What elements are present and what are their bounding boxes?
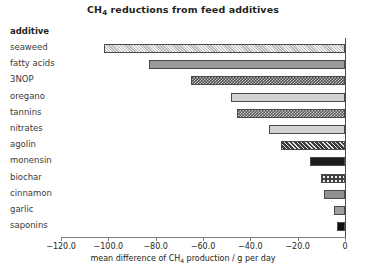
x-axis-title-rest: production / g per day <box>184 254 275 263</box>
bar-fatty-acids <box>149 60 345 69</box>
y-axis-label-agolin: agolin <box>10 139 36 149</box>
bar-tannins <box>237 109 345 118</box>
x-tick-3 <box>203 237 204 241</box>
y-axis-label-garlic: garlic <box>10 204 34 214</box>
y-axis-label-monensin: monensin <box>10 155 52 165</box>
y-axis-label-3nop: 3NOP <box>10 74 34 84</box>
x-tick-label-6: 0 <box>342 242 347 251</box>
x-axis-title-prefix: mean difference of CH <box>90 254 180 263</box>
x-axis-title-subscript: 4 <box>180 257 184 264</box>
y-axis-label-fatty-acids: fatty acids <box>10 58 55 68</box>
x-tick-label-1: −100.0 <box>94 242 124 251</box>
bar-agolin <box>281 141 345 150</box>
y-axis-label-seaweed: seaweed <box>10 42 48 52</box>
x-tick-label-4: −40.0 <box>238 242 263 251</box>
bar-oregano <box>231 93 345 102</box>
y-axis-label-biochar: biochar <box>10 172 42 182</box>
x-tick-label-0: −120.0 <box>46 242 76 251</box>
x-tick-1 <box>108 237 109 241</box>
x-tick-0 <box>61 237 62 241</box>
x-tick-6 <box>345 237 346 241</box>
bar-garlic <box>334 206 345 215</box>
chart-container: CH4 reductions from feed additives addit… <box>0 0 366 273</box>
y-axis-group-header: additive <box>10 26 49 36</box>
y-axis-label-oregano: oregano <box>10 91 45 101</box>
bar-nitrates <box>269 125 345 134</box>
x-tick-label-5: −20.0 <box>285 242 310 251</box>
plot-area <box>61 38 345 237</box>
x-tick-label-3: −60.0 <box>191 242 216 251</box>
bar-biochar <box>321 174 345 183</box>
chart-title-prefix: CH <box>87 4 102 15</box>
x-tick-label-2: −80.0 <box>143 242 168 251</box>
zero-axis-line <box>345 38 346 237</box>
bar-3nop <box>191 76 345 85</box>
chart-title-rest: reductions from feed additives <box>107 4 279 15</box>
x-tick-4 <box>250 237 251 241</box>
x-tick-2 <box>156 237 157 241</box>
bar-seaweed <box>104 44 345 53</box>
bar-cinnamon <box>324 190 345 199</box>
bar-saponins <box>337 222 345 231</box>
y-axis-label-saponins: saponins <box>10 220 48 230</box>
chart-title-subscript: 4 <box>102 9 107 17</box>
bar-monensin <box>310 157 346 166</box>
x-axis-title: mean difference of CH4 production / g pe… <box>0 254 366 263</box>
chart-title: CH4 reductions from feed additives <box>0 4 366 15</box>
y-axis-label-tannins: tannins <box>10 107 42 117</box>
y-axis-label-nitrates: nitrates <box>10 123 43 133</box>
x-tick-5 <box>298 237 299 241</box>
y-axis-label-cinnamon: cinnamon <box>10 188 52 198</box>
